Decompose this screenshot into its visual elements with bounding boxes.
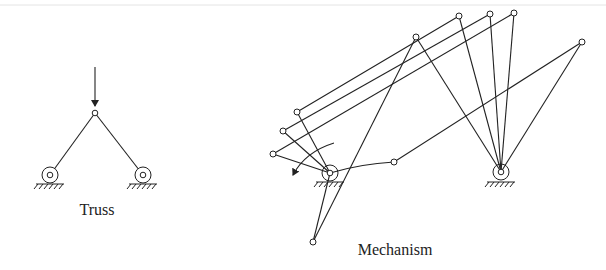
mechanism-diagram: Mechanism [270, 10, 585, 258]
rotation-arrow-icon [293, 143, 334, 175]
truss-member-left [50, 113, 95, 175]
linkage-configuration [273, 13, 514, 173]
pin-support-right-icon [127, 167, 157, 189]
linkage-configuration [330, 42, 582, 173]
truss-label: Truss [80, 201, 115, 218]
truss-diagram: Truss [34, 67, 157, 218]
linkage-configuration [297, 16, 501, 173]
crank-pivot-support-icon [314, 165, 344, 187]
figure-canvas: Truss [0, 0, 606, 270]
pin-support-left-icon [34, 167, 64, 189]
linkage-configuration [283, 14, 501, 173]
truss-member-right [95, 113, 143, 175]
mechanism-label: Mechanism [358, 241, 433, 258]
truss-joint [92, 110, 98, 116]
